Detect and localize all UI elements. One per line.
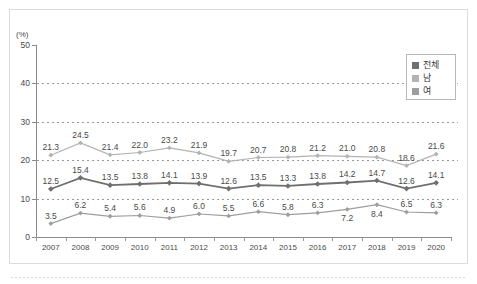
series-marker bbox=[78, 211, 83, 216]
legend-item-female[interactable]: 여 bbox=[412, 85, 455, 97]
legend-swatch-total bbox=[412, 62, 419, 69]
series-marker bbox=[404, 186, 410, 192]
series-marker bbox=[374, 202, 379, 207]
series-marker bbox=[433, 180, 439, 186]
legend-label-total: 전체 bbox=[423, 61, 439, 70]
series-marker bbox=[256, 155, 261, 160]
series-marker bbox=[315, 210, 320, 215]
legend-item-total[interactable]: 전체 bbox=[412, 59, 455, 71]
series-marker bbox=[404, 210, 409, 215]
series-marker bbox=[48, 221, 53, 226]
legend-swatch-female bbox=[412, 88, 419, 95]
series-marker bbox=[315, 181, 321, 187]
series-marker bbox=[404, 163, 409, 168]
series-marker bbox=[137, 213, 142, 218]
series-marker bbox=[167, 180, 173, 186]
series-marker bbox=[197, 151, 202, 156]
series-marker bbox=[344, 180, 350, 186]
series-marker bbox=[286, 155, 291, 160]
data-label: 21.6 bbox=[419, 141, 453, 151]
series-marker bbox=[108, 214, 113, 219]
data-label: 6.3 bbox=[301, 200, 335, 210]
series-marker bbox=[434, 152, 439, 157]
series-marker bbox=[167, 146, 172, 151]
series-marker bbox=[167, 216, 172, 221]
series-marker bbox=[226, 186, 232, 192]
series-marker bbox=[78, 141, 83, 146]
series-plot bbox=[0, 0, 477, 284]
series-marker bbox=[196, 181, 202, 187]
data-label: 8.4 bbox=[360, 209, 394, 219]
legend-label-male: 남 bbox=[423, 74, 431, 83]
data-label: 12.5 bbox=[34, 176, 68, 186]
chart-figure: (%) 01020304050 200720082009201020112012… bbox=[0, 0, 477, 284]
data-label: 24.5 bbox=[63, 130, 97, 140]
series-marker bbox=[345, 207, 350, 212]
data-label: 21.3 bbox=[34, 142, 68, 152]
data-label: 6.3 bbox=[419, 200, 453, 210]
series-marker bbox=[137, 150, 142, 155]
series-marker bbox=[374, 178, 380, 184]
legend-swatch-male bbox=[412, 75, 419, 82]
legend-item-male[interactable]: 남 bbox=[412, 72, 455, 84]
series-marker bbox=[256, 182, 262, 188]
series-marker bbox=[286, 212, 291, 217]
series-marker bbox=[78, 175, 84, 181]
series-marker bbox=[108, 152, 113, 157]
series-marker bbox=[315, 153, 320, 158]
series-marker bbox=[48, 153, 53, 158]
series-marker bbox=[226, 213, 231, 218]
series-marker bbox=[256, 209, 261, 214]
series-marker bbox=[107, 182, 113, 188]
data-label: 14.1 bbox=[419, 170, 453, 180]
series-marker bbox=[374, 155, 379, 160]
series-marker bbox=[48, 186, 54, 192]
series-marker bbox=[137, 181, 143, 187]
series-marker bbox=[345, 154, 350, 159]
series-marker bbox=[197, 212, 202, 217]
chart-legend: 전체 남 여 bbox=[406, 54, 456, 100]
series-marker bbox=[434, 210, 439, 215]
series-marker bbox=[285, 183, 291, 189]
legend-label-female: 여 bbox=[423, 87, 431, 96]
data-label: 18.6 bbox=[390, 153, 424, 163]
series-marker bbox=[226, 159, 231, 164]
data-label: 3.5 bbox=[34, 211, 68, 221]
bottom-divider bbox=[11, 277, 466, 278]
